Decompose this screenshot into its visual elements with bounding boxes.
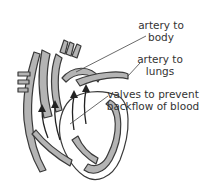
label-line: lungs — [132, 65, 188, 77]
label-line: body — [131, 31, 191, 43]
septum — [72, 136, 98, 164]
label-artery-to-lungs: artery to lungs — [132, 53, 188, 77]
label-line: valves to prevent — [106, 88, 200, 100]
label-line: artery to — [132, 53, 188, 65]
label-line: artery to — [131, 19, 191, 31]
label-line: backflow of blood — [106, 100, 200, 112]
label-artery-to-body: artery to body — [131, 19, 191, 43]
label-valves: valves to prevent backflow of blood — [106, 88, 200, 112]
